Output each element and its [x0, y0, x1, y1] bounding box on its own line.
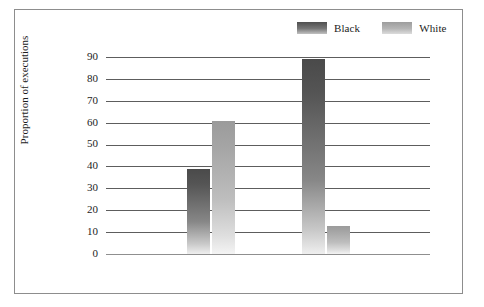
y-tick-30: 30	[72, 182, 98, 193]
gridline-90	[106, 57, 430, 58]
legend-label-white: White	[419, 22, 446, 34]
bar-chart-figure: Black White Proportion of executions 90 …	[0, 0, 484, 307]
gridline-60	[106, 123, 430, 124]
y-tick-10: 10	[72, 226, 98, 237]
y-tick-80: 80	[72, 73, 98, 84]
bar-white-least-humane	[327, 226, 350, 254]
gridline-30	[106, 188, 430, 189]
y-tick-50: 50	[72, 138, 98, 149]
y-tick-60: 60	[72, 117, 98, 128]
gridline-40	[106, 166, 430, 167]
y-tick-90: 90	[72, 51, 98, 62]
bar-black-least-humane	[302, 59, 325, 254]
legend-swatch-black-icon	[297, 22, 327, 34]
y-tick-20: 20	[72, 204, 98, 215]
legend-swatch-white-icon	[382, 22, 412, 34]
y-tick-40: 40	[72, 160, 98, 171]
plot-area: Most humane forms Least humane forms	[106, 57, 430, 254]
gridline-10	[106, 232, 430, 233]
y-axis-title: Proportion of executions	[18, 20, 30, 160]
y-axis-tick-labels: 90 80 70 60 50 40 30 20 10 0	[72, 57, 98, 254]
legend-entry-white: White	[382, 22, 446, 34]
gridline-80	[106, 79, 430, 80]
bar-white-most-humane	[212, 121, 235, 255]
legend-label-black: Black	[334, 22, 360, 34]
bar-black-most-humane	[187, 169, 210, 254]
gridline-0	[106, 254, 430, 255]
y-tick-0: 0	[72, 248, 98, 259]
legend-entry-black: Black	[297, 22, 360, 34]
gridline-50	[106, 145, 430, 146]
gridline-70	[106, 101, 430, 102]
y-tick-70: 70	[72, 95, 98, 106]
chart-legend: Black White	[297, 22, 447, 34]
gridline-20	[106, 210, 430, 211]
